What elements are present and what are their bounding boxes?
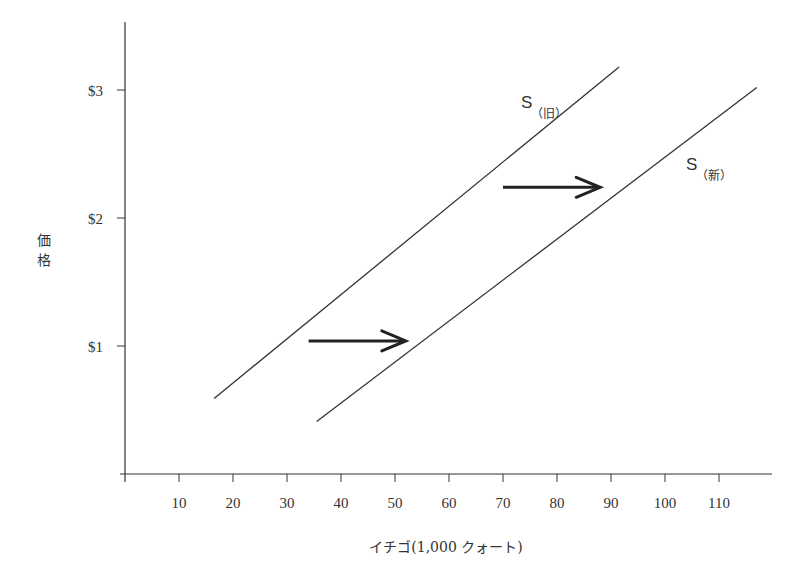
x-tick-label: 50 — [388, 495, 403, 511]
x-tick-label: 100 — [654, 495, 677, 511]
supply-curve-new — [317, 87, 757, 421]
supply-curves — [214, 67, 757, 422]
x-tick-label: 70 — [496, 495, 511, 511]
y-tick-label: $3 — [88, 83, 103, 99]
curve-label-sub: （旧） — [531, 107, 567, 121]
y-tick-label: $1 — [88, 339, 103, 355]
x-tick-label: 80 — [550, 495, 565, 511]
labels: S（旧）S（新）イチゴ(1,000 クォート)価格 — [37, 93, 732, 555]
x-tick-label: 60 — [442, 495, 457, 511]
x-tick-label: 90 — [604, 495, 619, 511]
x-tick-label: 20 — [226, 495, 241, 511]
x-tick-label: 40 — [334, 495, 349, 511]
x-tick-label: 30 — [280, 495, 295, 511]
y-tick-label: $2 — [88, 211, 103, 227]
shift-arrows — [309, 177, 601, 351]
curve-label-sub: （新） — [696, 168, 732, 183]
x-axis-title: イチゴ(1,000 クォート) — [369, 539, 522, 555]
supply-shift-chart: 102030405060708090100110$1$2$3 S（旧）S（新）イ… — [0, 0, 809, 582]
x-tick-label: 110 — [708, 495, 730, 511]
y-axis-title: 価格 — [37, 232, 51, 268]
x-tick-label: 10 — [172, 495, 187, 511]
axes: 102030405060708090100110$1$2$3 — [88, 22, 772, 511]
